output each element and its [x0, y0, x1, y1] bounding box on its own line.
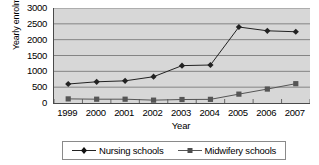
gridlines: [54, 8, 310, 87]
data-point-marker: [264, 28, 270, 34]
x-axis-tick-label: 2005: [223, 108, 253, 118]
data-point-marker: [122, 78, 128, 84]
x-axis-tick-label: 2001: [109, 108, 139, 118]
plot-area: [53, 8, 310, 104]
data-point-marker: [179, 63, 185, 69]
data-point-marker: [208, 97, 213, 102]
legend-label-nursing-schools: Nursing schools: [99, 145, 164, 156]
legend-label-midwifery-schools: Midwifery schools: [205, 145, 277, 156]
data-point-marker: [94, 97, 99, 102]
y-axis-tick-label: 500: [14, 82, 47, 92]
x-axis-tick-label: 2007: [280, 108, 310, 118]
y-axis-tick-label: 1000: [14, 66, 47, 76]
x-axis-tick-label: 2000: [81, 108, 111, 118]
x-axis-title: Year: [53, 120, 309, 131]
x-axis-tick-label: 2002: [138, 108, 168, 118]
y-axis-tick-label: 3000: [14, 3, 47, 13]
legend-diamond-marker-icon: [72, 146, 96, 155]
chart-legend: Nursing schools Midwifery schools: [62, 141, 286, 160]
chart-container: Yearly enrolment 05001000150020002500300…: [0, 0, 319, 165]
legend-item-midwifery-schools: Midwifery schools: [178, 145, 277, 156]
y-axis-tick-label: 1500: [14, 51, 47, 61]
x-axis-tick-label: 2004: [194, 108, 224, 118]
data-point-marker: [265, 86, 270, 91]
data-point-marker: [66, 96, 71, 101]
data-series-layer: [65, 24, 299, 103]
x-axis-tick-label: 1999: [52, 108, 82, 118]
data-point-marker: [293, 81, 298, 86]
data-point-marker: [179, 97, 184, 102]
data-point-marker: [151, 98, 156, 103]
y-axis-tick-labels: 050010001500200025003000: [14, 0, 47, 110]
data-point-marker: [150, 74, 156, 80]
legend-item-nursing-schools: Nursing schools: [72, 145, 164, 156]
data-point-marker: [236, 92, 241, 97]
y-axis-tick-label: 2500: [14, 19, 47, 29]
data-point-marker: [94, 79, 100, 85]
y-axis-tick-label: 0: [14, 98, 47, 108]
x-axis-tick-label: 2003: [166, 108, 196, 118]
plot-svg: [54, 8, 310, 103]
x-axis-tick-label: 2006: [251, 108, 281, 118]
data-point-marker: [65, 81, 71, 87]
y-axis-tick-label: 2000: [14, 35, 47, 45]
data-point-marker: [293, 29, 299, 35]
data-point-marker: [123, 97, 128, 102]
legend-square-marker-icon: [178, 146, 202, 155]
